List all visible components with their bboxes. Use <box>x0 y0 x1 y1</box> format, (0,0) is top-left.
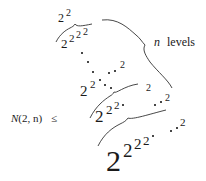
tower-4-exp2: 2 <box>114 100 120 111</box>
tower-2-exp1: 2 <box>69 33 75 44</box>
lhs-args: (2, n) <box>18 112 42 124</box>
tower-5-exp1: 2 <box>123 141 133 160</box>
ellipsis-dot <box>154 104 156 106</box>
ellipsis-dot <box>87 61 89 63</box>
tower-5-exp3: 2 <box>143 134 150 147</box>
lhs-expression: N(2, n) ≤ <box>11 113 57 124</box>
tower-1-base: 2 <box>58 12 64 24</box>
lhs-relation: ≤ <box>51 112 57 124</box>
n-levels-brace <box>102 20 172 88</box>
ellipsis-dot <box>99 79 101 81</box>
ellipsis-dot <box>110 87 112 89</box>
ellipsis-dot <box>122 104 124 106</box>
n-levels-text: levels <box>167 35 195 49</box>
tower-2-exp2: 2 <box>76 30 81 40</box>
tower-3b-top: 2 <box>146 83 151 93</box>
tower-2-exp3: 2 <box>83 27 88 37</box>
ellipsis-dot <box>152 135 154 137</box>
ellipsis-dot <box>114 70 116 72</box>
tower-5-exp2: 2 <box>134 137 142 152</box>
tower-1-exp: 2 <box>66 8 71 18</box>
ellipsis-dot <box>170 130 172 132</box>
ellipsis-dot <box>81 52 83 54</box>
ellipsis-dot <box>104 84 106 86</box>
ellipsis-dot <box>92 71 94 73</box>
tower-5-base: 2 <box>106 146 121 176</box>
n-levels-var: n <box>154 35 160 49</box>
n-levels-label: n levels <box>154 36 195 48</box>
braces-layer <box>0 0 206 181</box>
tower-3-exp1: 2 <box>90 79 96 90</box>
ellipsis-dot <box>176 127 178 129</box>
ellipsis-dot <box>160 101 162 103</box>
ellipsis-dot <box>108 72 110 74</box>
tower-2-base: 2 <box>61 37 68 50</box>
tower-4-top: 2 <box>165 93 170 103</box>
tower-4-exp1: 2 <box>106 103 113 116</box>
tower-3-top: 2 <box>120 60 125 70</box>
tower-4-base: 2 <box>95 108 104 125</box>
tower-5-top: 2 <box>180 117 186 128</box>
tower-3-base: 2 <box>80 84 88 99</box>
